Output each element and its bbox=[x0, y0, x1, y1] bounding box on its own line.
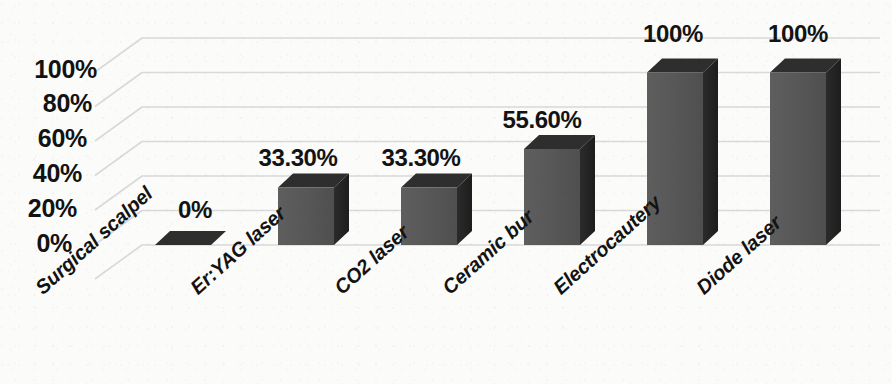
data-label-eryag-laser: 33.30% bbox=[228, 144, 368, 172]
bar-diode-laser bbox=[770, 59, 841, 246]
ytick-label-60: 60% bbox=[0, 124, 87, 153]
bar-side-face-electrocautery bbox=[703, 59, 718, 246]
bar-side-face-diode-laser bbox=[826, 59, 841, 246]
data-label-co2-laser: 33.30% bbox=[351, 144, 491, 172]
bar-front-face-ceramic-bur bbox=[524, 149, 580, 245]
bar-front-face-electrocautery bbox=[647, 73, 703, 246]
bar-surgical-scalpel bbox=[155, 231, 226, 245]
ytick-label-100: 100% bbox=[0, 55, 97, 84]
bar-er-yag-laser bbox=[278, 174, 349, 245]
bar-top-face-surgical-scalpel bbox=[155, 231, 226, 245]
bar-ceramic-bur bbox=[524, 135, 595, 245]
chart-figure: 100% 80% 60% 40% 20% 0% 0% 33.30% 33.30%… bbox=[0, 0, 892, 384]
data-label-electrocautery: 100% bbox=[603, 20, 743, 48]
ytick-label-20: 20% bbox=[0, 194, 77, 223]
data-label-ceramic-bur: 55.60% bbox=[472, 106, 612, 134]
data-label-diode-laser: 100% bbox=[728, 20, 868, 48]
bar-electrocautery bbox=[647, 59, 718, 246]
ytick-label-80: 80% bbox=[0, 89, 92, 118]
gridline bbox=[95, 73, 880, 107]
ytick-label-40: 40% bbox=[0, 159, 82, 188]
bar-side-face-ceramic-bur bbox=[580, 135, 595, 245]
data-label-surgical-scalpel: 0% bbox=[155, 196, 235, 224]
